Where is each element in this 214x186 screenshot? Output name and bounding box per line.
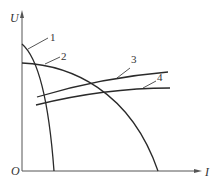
curve-4-label: 4 [157, 71, 163, 83]
y-axis-arrow-icon [20, 10, 24, 18]
curve-2-label: 2 [61, 50, 67, 62]
x-axis-label: I [204, 165, 210, 179]
curve-3-label: 3 [131, 53, 137, 65]
curve-2 [22, 63, 158, 171]
curve-4-leader [143, 81, 156, 88]
origin-label: O [11, 164, 20, 178]
characteristic-diagram: U I O 1 2 3 4 [0, 0, 214, 186]
curve-1-leader [28, 38, 48, 49]
y-axis-label: U [10, 11, 20, 25]
x-axis-arrow-icon [194, 169, 202, 173]
curve-2-leader [45, 57, 60, 64]
curve-3 [37, 72, 168, 97]
curve-1-label: 1 [50, 31, 56, 43]
